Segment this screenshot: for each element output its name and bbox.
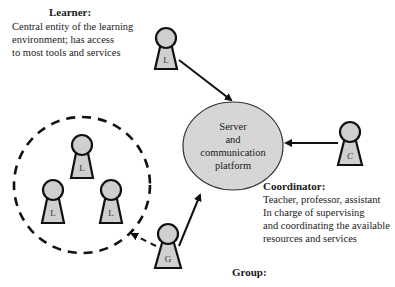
pawn-letter: L <box>108 208 114 218</box>
server-ellipse <box>183 102 283 190</box>
pawn-head <box>72 135 92 155</box>
group-learner-pawn-left: L <box>42 180 64 223</box>
learner-title: Learner: <box>49 6 91 18</box>
group-learner-pawn-right: L <box>100 180 122 223</box>
pawn-letter: G <box>165 254 172 264</box>
group-rep-to-group-arrow <box>132 234 156 246</box>
group-learner-pawn-top: L <box>71 135 93 178</box>
learner-line-2: environment; has access <box>12 34 114 45</box>
pawn-letter: C <box>347 151 354 161</box>
group-rep-pawn: G <box>155 224 181 268</box>
pawn-head <box>101 180 121 200</box>
coordinator-line-3: and coordinating the available <box>263 220 390 231</box>
coordinator-line-2: In charge of supervising <box>263 207 365 218</box>
pawn-letter: L <box>50 208 56 218</box>
learner-to-server-arrow <box>179 60 231 100</box>
group-title: Group: <box>232 266 267 278</box>
server-line-3: communication <box>200 147 266 158</box>
coordinator-title: Coordinator: <box>263 180 325 192</box>
coordinator-pawn: C <box>338 122 362 165</box>
server-platform: Server and communication platform <box>183 102 283 190</box>
server-line-2: and <box>225 134 241 145</box>
group-to-server-arrow <box>179 195 200 246</box>
server-line-4: platform <box>215 160 251 171</box>
pawn-head <box>340 122 360 142</box>
pawn-head <box>43 180 63 200</box>
pawn-letter: L <box>163 55 169 65</box>
coordinator-line-4: resources and services <box>263 233 357 244</box>
learner-line-3: to most tools and services <box>12 47 121 58</box>
learner-description: Learner: Central entity of the learning … <box>12 6 134 58</box>
pawn-head <box>158 224 178 244</box>
pawn-head <box>156 28 176 48</box>
learning-environment-diagram: Learner: Central entity of the learning … <box>0 0 395 287</box>
pawn-letter: L <box>79 163 85 173</box>
learner-pawn-top: L <box>155 28 177 69</box>
coordinator-line-1: Teacher, professor, assistant <box>263 194 380 205</box>
learner-line-1: Central entity of the learning <box>12 21 134 32</box>
server-line-1: Server <box>219 121 247 132</box>
coordinator-description: Coordinator: Teacher, professor, assista… <box>263 180 390 244</box>
